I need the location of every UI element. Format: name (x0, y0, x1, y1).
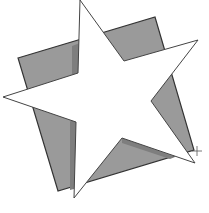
drawing-canvas[interactable] (0, 0, 209, 213)
